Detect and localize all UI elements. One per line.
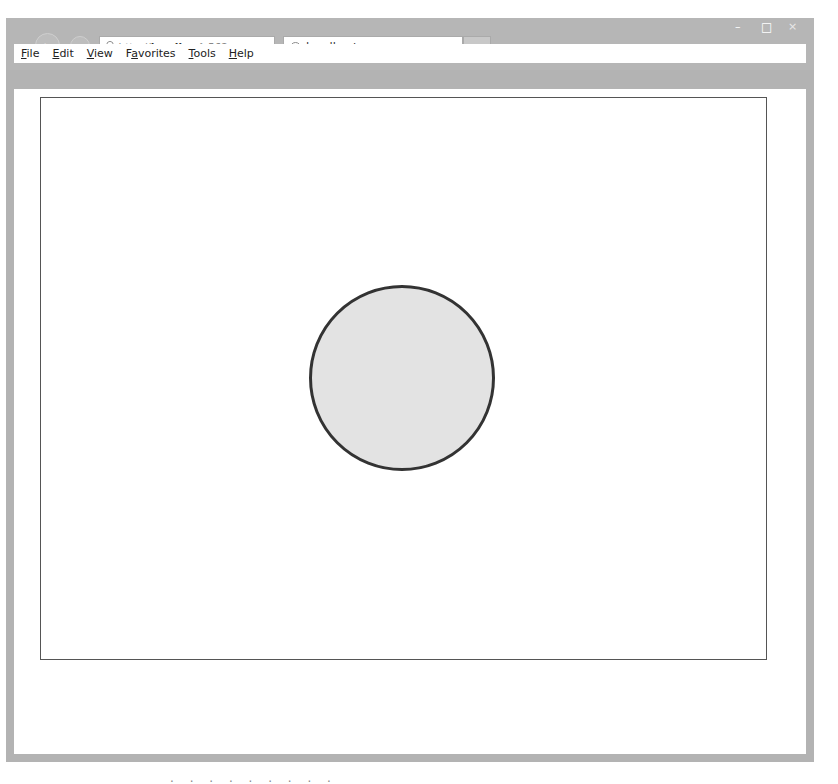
maximize-button[interactable]: □: [761, 20, 772, 34]
menu-row: File Edit View Favorites Tools Help: [14, 44, 806, 63]
minimize-button[interactable]: –: [735, 20, 741, 33]
menu-view[interactable]: View: [87, 47, 113, 60]
cropped-caption-text: · · · · · · · · ·: [170, 775, 337, 784]
menu-file[interactable]: File: [21, 47, 39, 60]
menu-tools[interactable]: Tools: [189, 47, 216, 60]
menu-favorites[interactable]: Favorites: [126, 47, 176, 60]
menu-edit[interactable]: Edit: [52, 47, 73, 60]
close-window-button[interactable]: ×: [788, 20, 797, 33]
menu-help[interactable]: Help: [229, 47, 254, 60]
drawn-circle[interactable]: [309, 285, 495, 471]
